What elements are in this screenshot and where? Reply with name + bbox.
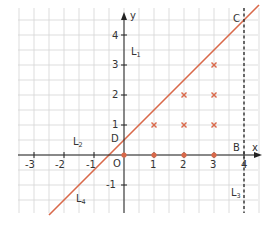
dot-mark-icon <box>151 152 156 157</box>
x-axis-label: x <box>252 143 258 153</box>
label-L2: L2 <box>73 137 83 147</box>
point-label-D: D <box>111 134 119 144</box>
label-L3: L3 <box>231 188 241 198</box>
y-tick-label: 1 <box>112 120 118 130</box>
coordinate-diagram: y x O -3 -2 -1 1 2 3 4 -1 1 2 3 4 L1 L2 … <box>0 0 269 230</box>
x-tick-label: -2 <box>55 160 65 170</box>
x-tick-label: 4 <box>241 160 247 170</box>
label-L4: L4 <box>76 194 86 204</box>
y-tick-label: 4 <box>112 31 118 41</box>
x-tick-label: 3 <box>210 160 216 170</box>
y-axis-label: y <box>130 11 136 21</box>
dot-mark-icon <box>211 152 216 157</box>
x-tick-label: -1 <box>86 160 96 170</box>
plot-canvas <box>0 0 269 230</box>
origin-label: O <box>113 159 121 169</box>
y-tick-label: 2 <box>112 90 118 100</box>
label-L1: L1 <box>131 47 141 57</box>
point-label-B: B <box>233 143 240 153</box>
point-label-C: C <box>233 14 240 24</box>
x-tick-label: -3 <box>25 160 35 170</box>
grid <box>18 8 259 213</box>
y-tick-label: -1 <box>106 180 116 190</box>
x-tick-label: 1 <box>150 160 156 170</box>
dot-mark-icon <box>181 152 186 157</box>
y-axis-arrow-icon <box>121 12 127 20</box>
x-tick-label: 2 <box>180 160 186 170</box>
dot-mark-icon <box>121 152 126 157</box>
y-tick-label: 3 <box>112 60 118 70</box>
